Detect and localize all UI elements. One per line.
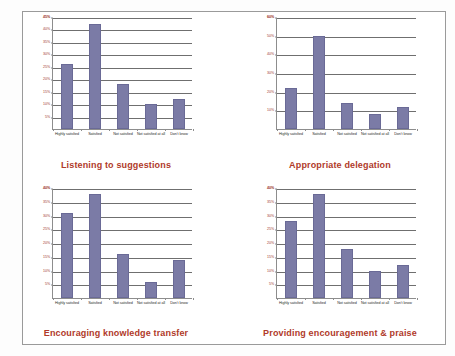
y-axis-tick-label: 50% xyxy=(267,35,277,39)
y-axis-max-label: 45% xyxy=(43,16,53,20)
gridline xyxy=(53,244,192,245)
y-axis-tick-label: 5% xyxy=(45,116,53,120)
gridline xyxy=(53,18,192,19)
bar xyxy=(173,99,185,129)
y-axis-tick-label: 5% xyxy=(269,283,277,287)
bar xyxy=(369,114,381,129)
bar xyxy=(61,213,73,298)
bar xyxy=(173,260,185,299)
gridline xyxy=(53,217,192,218)
y-axis-tick-label: 10% xyxy=(43,103,53,107)
x-axis-tick-label: Don't know xyxy=(386,132,420,137)
y-axis-tick-label: 30% xyxy=(267,72,277,76)
chart-title: Listening to suggestions xyxy=(26,160,206,170)
y-axis-tick-label: 20% xyxy=(43,242,53,246)
bar xyxy=(313,36,325,129)
gridline xyxy=(277,55,416,56)
chart-panel-listening: 5%10%15%20%25%30%35%40%45%45%Highly sati… xyxy=(26,14,206,178)
x-tick-mark xyxy=(417,129,418,131)
x-tick-mark xyxy=(109,298,110,300)
x-axis-tick-label: Don't know xyxy=(386,301,420,306)
bar xyxy=(117,84,129,129)
y-axis-tick-label: 20% xyxy=(267,91,277,95)
y-axis-tick-label: 25% xyxy=(267,228,277,232)
y-axis-tick-label: 30% xyxy=(43,215,53,219)
x-tick-mark xyxy=(53,129,54,131)
y-axis-tick-label: 15% xyxy=(43,256,53,260)
bar xyxy=(285,221,297,298)
x-tick-mark xyxy=(277,129,278,131)
chart-panel-delegation: 10%20%30%40%50%60%60%Highly satisfiedSat… xyxy=(250,14,430,178)
bar xyxy=(285,88,297,129)
bar xyxy=(397,265,409,298)
x-tick-mark xyxy=(81,129,82,131)
x-axis-tick-label: Don't know xyxy=(162,301,196,306)
y-axis-tick-label: 25% xyxy=(43,228,53,232)
bar xyxy=(61,64,73,129)
gridline xyxy=(277,18,416,19)
y-axis-tick-label: 25% xyxy=(43,66,53,70)
y-axis-tick-label: 5% xyxy=(45,283,53,287)
x-tick-mark xyxy=(165,298,166,300)
x-tick-mark xyxy=(81,298,82,300)
x-tick-mark xyxy=(333,298,334,300)
y-axis-tick-label: 35% xyxy=(43,41,53,45)
bar xyxy=(341,249,353,299)
gridline xyxy=(53,230,192,231)
x-tick-mark xyxy=(389,298,390,300)
y-axis-tick-label: 15% xyxy=(267,256,277,260)
gridline xyxy=(277,244,416,245)
gridline xyxy=(277,93,416,94)
y-axis-max-label: 40% xyxy=(267,187,277,191)
gridline xyxy=(53,43,192,44)
gridline xyxy=(277,189,416,190)
x-tick-mark xyxy=(361,129,362,131)
bar xyxy=(397,107,409,129)
chart-plot-encouragement: 5%10%15%20%25%30%35%40%40%Highly satisfi… xyxy=(250,185,430,349)
chart-title: Encouraging knowledge transfer xyxy=(26,328,206,338)
y-axis-tick-label: 15% xyxy=(43,91,53,95)
x-tick-mark xyxy=(109,129,110,131)
chart-panel-encouragement: 5%10%15%20%25%30%35%40%40%Highly satisfi… xyxy=(250,185,430,349)
x-tick-mark xyxy=(193,298,194,300)
bar xyxy=(89,24,101,129)
bar xyxy=(341,103,353,129)
y-axis-tick-label: 10% xyxy=(43,270,53,274)
gridline xyxy=(53,80,192,81)
x-tick-mark xyxy=(53,298,54,300)
x-tick-mark xyxy=(277,298,278,300)
y-axis-tick-label: 35% xyxy=(267,201,277,205)
plot-area: 5%10%15%20%25%30%35%40%45%45%Highly sati… xyxy=(52,18,192,130)
y-axis-max-label: 40% xyxy=(43,187,53,191)
plot-area: 5%10%15%20%25%30%35%40%40%Highly satisfi… xyxy=(52,189,192,299)
gridline xyxy=(277,203,416,204)
x-tick-mark xyxy=(361,298,362,300)
bar xyxy=(145,104,157,129)
chart-title: Appropriate delegation xyxy=(250,160,430,170)
y-axis-tick-label: 30% xyxy=(267,215,277,219)
y-axis-tick-label: 40% xyxy=(267,54,277,58)
x-tick-mark xyxy=(137,129,138,131)
y-axis-tick-label: 10% xyxy=(267,270,277,274)
y-axis-tick-label: 30% xyxy=(43,54,53,58)
bar xyxy=(117,254,129,298)
plot-area: 5%10%15%20%25%30%35%40%40%Highly satisfi… xyxy=(276,189,416,299)
chart-plot-listening: 5%10%15%20%25%30%35%40%45%45%Highly sati… xyxy=(26,14,206,178)
gridline xyxy=(277,230,416,231)
gridline xyxy=(277,37,416,38)
x-tick-mark xyxy=(333,129,334,131)
x-tick-mark xyxy=(193,129,194,131)
gridline xyxy=(53,30,192,31)
x-tick-mark xyxy=(389,129,390,131)
x-tick-mark xyxy=(305,129,306,131)
gridline xyxy=(53,189,192,190)
gridline xyxy=(53,68,192,69)
chart-panel-knowledge: 5%10%15%20%25%30%35%40%40%Highly satisfi… xyxy=(26,185,206,349)
x-tick-mark xyxy=(137,298,138,300)
y-axis-max-label: 60% xyxy=(267,16,277,20)
chart-plot-knowledge: 5%10%15%20%25%30%35%40%40%Highly satisfi… xyxy=(26,185,206,349)
y-axis-tick-label: 20% xyxy=(267,242,277,246)
gridline xyxy=(53,55,192,56)
x-axis-tick-label: Don't know xyxy=(162,132,196,137)
gridline xyxy=(277,74,416,75)
